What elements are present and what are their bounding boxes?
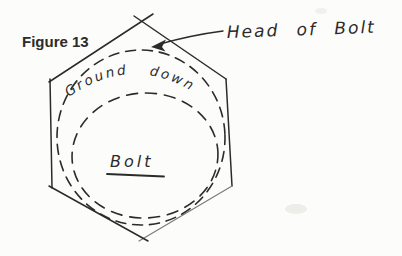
hexagon-edge-left xyxy=(50,79,52,188)
hexagon-edge-right xyxy=(226,79,232,186)
scanned-page: Figure 13 Head of Bolt Ground down Bolt xyxy=(0,0,402,256)
hexagon-edge-bottom-right xyxy=(139,186,232,241)
paper-smudge xyxy=(315,8,327,14)
figure-label: Figure 13 xyxy=(22,33,89,50)
bolt-head-diagram: Figure 13 Head of Bolt Ground down Bolt xyxy=(0,0,402,256)
head-of-bolt-label: Head of Bolt xyxy=(226,17,376,42)
hexagon-edge-bottom-left xyxy=(49,186,148,241)
paper-smudge xyxy=(285,204,307,214)
bolt-label: Bolt xyxy=(110,152,153,171)
leader-arrow xyxy=(151,31,223,52)
bolt-label-underline xyxy=(107,174,164,177)
arrowhead-icon xyxy=(151,40,166,52)
leader-line xyxy=(160,31,223,44)
